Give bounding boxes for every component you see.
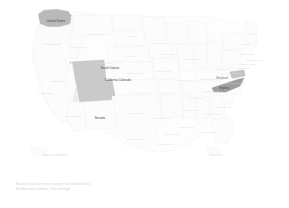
state-minnesota [142,16,166,42]
state-south-dakota [114,30,146,47]
caption-line-2: Shaded areas indicate 2020 coverage. [16,187,216,192]
state-new-mexico [82,100,116,130]
state-iowa [148,44,174,58]
us-states-svg [0,0,289,178]
state-wyoming [70,60,106,82]
state-wisconsin [166,22,188,44]
state-nebraska [108,46,150,62]
inset-puerto-rico [206,147,220,153]
state-michigan [188,20,208,44]
state-washington [38,9,72,27]
state-arkansas [158,80,182,96]
state-colorado [76,80,116,102]
state-indiana [194,44,208,68]
state-new-england [246,20,258,44]
map-figure: United StatesSouth DakotaCalifornia Colo… [0,0,289,208]
figure-caption: Based on data for every county of the Un… [16,182,216,192]
state-alabama [196,96,210,118]
state-ohio [208,40,222,64]
state-louisiana [160,96,184,118]
state-north-dakota [112,14,142,31]
state-arizona [66,102,86,132]
state-missouri [152,58,180,80]
state-oregon [36,25,72,44]
us-choropleth-map: United StatesSouth DakotaCalifornia Colo… [0,0,289,178]
state-kansas [112,62,154,80]
state-shapes [30,9,258,156]
state-pennsylvania [222,50,242,64]
offshore-label: Puerto Rico [209,155,223,158]
offshore-label: Hawaii, United States [43,155,68,158]
state-oklahoma [116,80,158,96]
state-new-york [222,32,248,50]
state-florida [212,118,234,144]
state-montana [72,14,114,36]
state-mississippi [182,96,196,118]
